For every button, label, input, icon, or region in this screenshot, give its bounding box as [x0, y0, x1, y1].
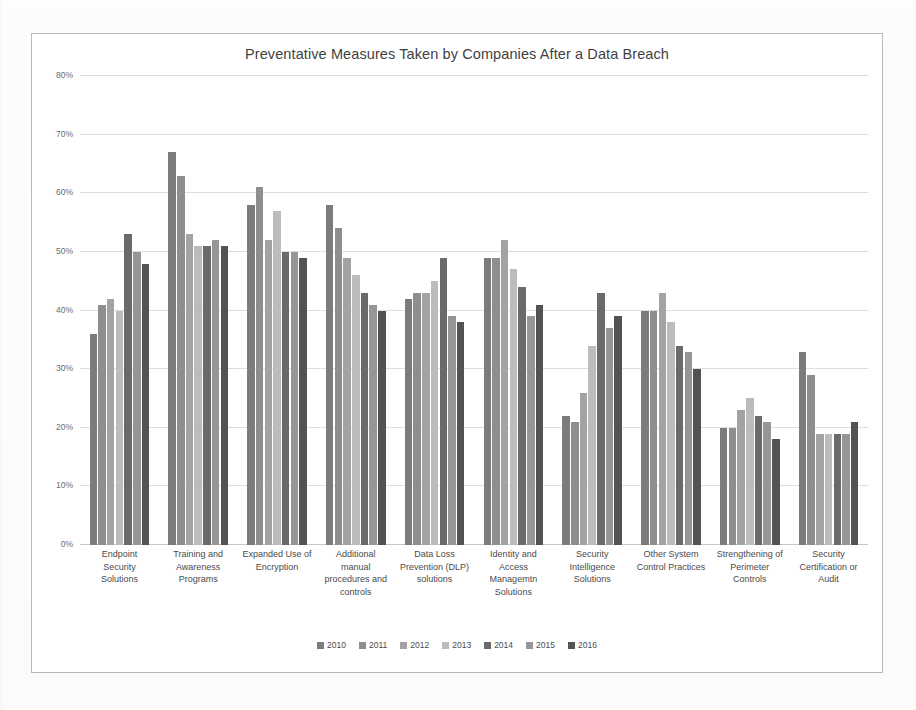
- bar[interactable]: [273, 211, 281, 545]
- bar[interactable]: [799, 352, 807, 545]
- y-axis-tick-label: 80%: [56, 70, 73, 80]
- bar[interactable]: [448, 316, 456, 545]
- bar-group: [395, 76, 474, 545]
- bar[interactable]: [518, 287, 526, 545]
- bar[interactable]: [440, 258, 448, 545]
- bar[interactable]: [492, 258, 500, 545]
- legend-item-2011[interactable]: 2011: [359, 640, 387, 650]
- bar-group: [474, 76, 553, 545]
- legend-swatch-icon: [359, 642, 366, 649]
- bar[interactable]: [588, 346, 596, 545]
- bar[interactable]: [685, 352, 693, 545]
- bar[interactable]: [484, 258, 492, 545]
- bar[interactable]: [562, 416, 570, 545]
- bar[interactable]: [536, 305, 544, 545]
- bar[interactable]: [571, 422, 579, 545]
- legend-swatch-icon: [568, 642, 575, 649]
- bar[interactable]: [168, 152, 176, 545]
- legend-swatch-icon: [317, 642, 324, 649]
- bar[interactable]: [510, 269, 518, 545]
- bar[interactable]: [282, 252, 290, 545]
- bar[interactable]: [142, 264, 150, 545]
- bar[interactable]: [614, 316, 622, 545]
- bar[interactable]: [422, 293, 430, 545]
- category-label: Training andAwarenessPrograms: [159, 548, 238, 614]
- bar[interactable]: [194, 246, 202, 545]
- bar[interactable]: [825, 434, 833, 545]
- bar[interactable]: [221, 246, 229, 545]
- bar[interactable]: [413, 293, 421, 545]
- bar[interactable]: [527, 316, 535, 545]
- legend-item-2016[interactable]: 2016: [568, 640, 597, 650]
- bar[interactable]: [352, 275, 360, 545]
- bar[interactable]: [177, 176, 185, 545]
- bar[interactable]: [335, 228, 343, 545]
- bar[interactable]: [116, 311, 124, 546]
- bar[interactable]: [746, 398, 754, 545]
- bar[interactable]: [107, 299, 115, 545]
- bar[interactable]: [291, 252, 299, 545]
- bar[interactable]: [98, 305, 106, 545]
- bar[interactable]: [265, 240, 273, 545]
- y-axis-tick-label: 10%: [56, 480, 73, 490]
- bar[interactable]: [763, 422, 771, 545]
- category-label-line: Security: [81, 561, 158, 574]
- bar[interactable]: [659, 293, 667, 545]
- legend-item-2013[interactable]: 2013: [442, 640, 471, 650]
- legend-label: 2016: [578, 640, 597, 650]
- bar[interactable]: [361, 293, 369, 545]
- bar[interactable]: [772, 439, 780, 545]
- bar-group: [159, 76, 238, 545]
- bar[interactable]: [580, 393, 588, 545]
- legend-item-2012[interactable]: 2012: [400, 640, 429, 650]
- bar[interactable]: [431, 281, 439, 545]
- bar[interactable]: [729, 428, 737, 545]
- bar[interactable]: [256, 187, 264, 545]
- legend-item-2010[interactable]: 2010: [317, 640, 346, 650]
- category-label-line: Controls: [711, 573, 788, 586]
- bar[interactable]: [501, 240, 509, 545]
- bar[interactable]: [842, 434, 850, 545]
- bar[interactable]: [641, 311, 649, 546]
- bar[interactable]: [606, 328, 614, 545]
- bar[interactable]: [597, 293, 605, 545]
- bar[interactable]: [816, 434, 824, 545]
- legend-swatch-icon: [400, 642, 407, 649]
- bar[interactable]: [326, 205, 334, 545]
- category-label-line: Intelligence: [554, 561, 631, 574]
- y-axis-tick-label: 20%: [56, 422, 73, 432]
- category-label-line: Awareness: [160, 561, 237, 574]
- bar[interactable]: [378, 311, 386, 546]
- bar[interactable]: [203, 246, 211, 545]
- bar[interactable]: [133, 252, 141, 545]
- bar[interactable]: [834, 434, 842, 545]
- legend-item-2014[interactable]: 2014: [484, 640, 513, 650]
- bar[interactable]: [186, 234, 194, 545]
- legend-item-2015[interactable]: 2015: [526, 640, 555, 650]
- bar[interactable]: [405, 299, 413, 545]
- legend-label: 2012: [410, 640, 429, 650]
- bar[interactable]: [343, 258, 351, 545]
- legend-swatch-icon: [442, 642, 449, 649]
- category-label-line: manual: [317, 561, 394, 574]
- legend-label: 2015: [536, 640, 555, 650]
- bar[interactable]: [369, 305, 377, 545]
- bar[interactable]: [851, 422, 859, 545]
- category-label: SecurityCertification orAudit: [789, 548, 868, 614]
- bar[interactable]: [124, 234, 132, 545]
- bar[interactable]: [299, 258, 307, 545]
- bar[interactable]: [676, 346, 684, 545]
- bar[interactable]: [807, 375, 815, 545]
- bar[interactable]: [755, 416, 763, 545]
- category-label-line: Access: [475, 561, 552, 574]
- bar[interactable]: [212, 240, 220, 545]
- bar[interactable]: [650, 311, 658, 546]
- category-label-line: Endpoint: [81, 548, 158, 561]
- bar[interactable]: [720, 428, 728, 545]
- bar[interactable]: [247, 205, 255, 545]
- bar[interactable]: [90, 334, 98, 545]
- bar[interactable]: [457, 322, 465, 545]
- bar[interactable]: [737, 410, 745, 545]
- bar[interactable]: [693, 369, 701, 545]
- bar[interactable]: [667, 322, 675, 545]
